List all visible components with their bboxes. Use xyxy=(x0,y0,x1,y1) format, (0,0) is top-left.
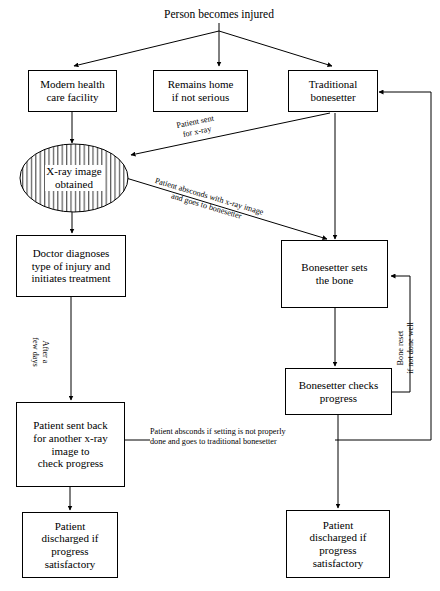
node-doctor-diagnoses[interactable]: Doctor diagnoses type of injury and init… xyxy=(16,235,126,297)
edge-label-line2: few days xyxy=(30,324,40,380)
node-label: Remains home if not serious xyxy=(168,78,234,104)
cropped-caption-remnant xyxy=(14,583,414,590)
node-patient-discharged-left[interactable]: Patient discharged if progress satisfact… xyxy=(22,512,118,578)
node-xray-image-obtained[interactable]: X-ray image obtained xyxy=(20,144,128,212)
node-bonesetter-sets-bone[interactable]: Bonesetter sets the bone xyxy=(281,240,388,308)
node-bonesetter-checks-progress[interactable]: Bonesetter checks progress xyxy=(285,368,392,415)
edge-label-line2: if not done well xyxy=(406,308,416,388)
edge-label-line2: done and goes to traditional bonesetter xyxy=(150,437,335,447)
node-patient-sent-back[interactable]: Patient sent back for another x-ray imag… xyxy=(16,402,125,487)
node-patient-discharged-right[interactable]: Patient discharged if progress satisfact… xyxy=(286,510,390,578)
node-label: Bonesetter checks progress xyxy=(299,379,379,405)
node-label: Bonesetter sets the bone xyxy=(301,261,367,287)
node-label: Patient discharged if progress satisfact… xyxy=(42,520,99,571)
edge-label-absconds-if-setting: Patient absconds if setting is not prope… xyxy=(150,427,335,447)
node-label: Modern health care facility xyxy=(40,78,104,104)
edge-label-line1: Bone reset xyxy=(396,308,406,388)
node-modern-health-care-facility[interactable]: Modern health care facility xyxy=(28,70,117,112)
node-label: Patient discharged if progress satisfact… xyxy=(310,519,367,570)
edge-label-after-a-few-days: After a few days xyxy=(30,324,50,380)
node-traditional-bonesetter[interactable]: Traditional bonesetter xyxy=(288,70,378,112)
flowchart-canvas: Person becomes injured Modern health car… xyxy=(0,0,440,591)
node-label: X-ray image obtained xyxy=(45,165,102,191)
node-label: Doctor diagnoses type of injury and init… xyxy=(31,247,110,285)
flowchart-title: Person becomes injured xyxy=(119,8,319,21)
edge-label-line1: Patient absconds if setting is not prope… xyxy=(150,427,335,437)
node-label: Traditional bonesetter xyxy=(309,78,358,104)
edge-label-bone-reset: Bone reset if not done well xyxy=(396,308,416,388)
node-label: Patient sent back for another x-ray imag… xyxy=(33,419,108,470)
node-remains-home[interactable]: Remains home if not serious xyxy=(153,70,248,112)
edge-label-line1: After a xyxy=(40,324,50,380)
